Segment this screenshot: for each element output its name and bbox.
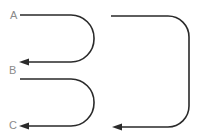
arrowhead-icon bbox=[19, 59, 29, 66]
label-b: B bbox=[9, 64, 16, 76]
arrowhead-icon bbox=[19, 123, 29, 130]
diagram-canvas: A B C bbox=[0, 0, 198, 136]
arrowhead-icon bbox=[112, 124, 122, 131]
loop-a-to-b bbox=[19, 15, 94, 66]
loop-large bbox=[111, 16, 189, 131]
loop-b-to-c bbox=[19, 79, 94, 130]
label-a: A bbox=[10, 9, 18, 21]
label-c: C bbox=[9, 119, 17, 131]
